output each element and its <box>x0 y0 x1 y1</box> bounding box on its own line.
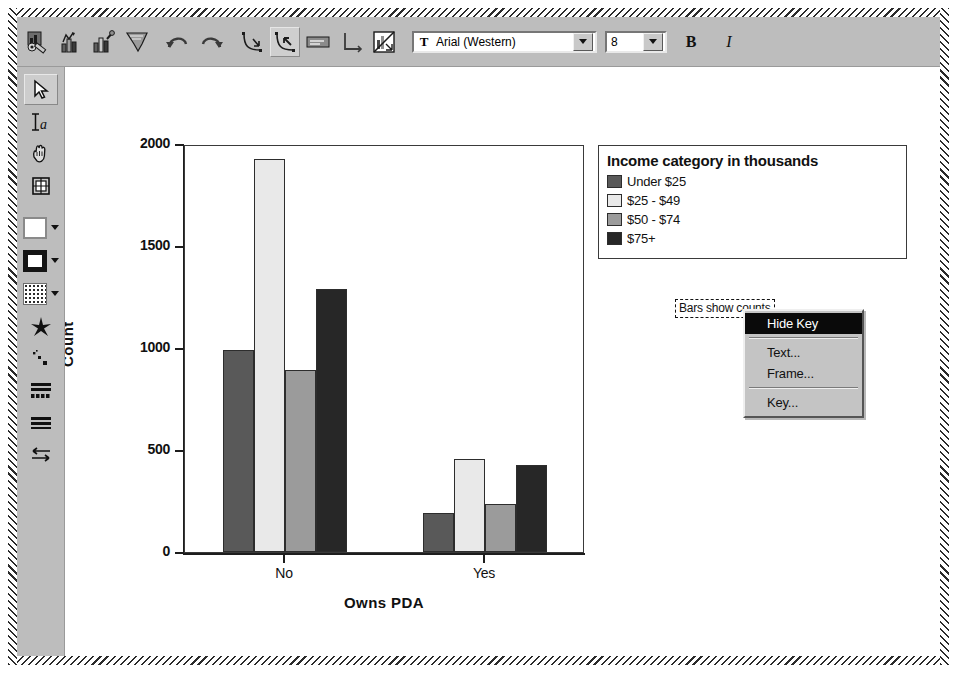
y-axis-tick <box>175 348 184 350</box>
bold-button[interactable]: B <box>677 28 705 56</box>
y-axis-tick-label: 500 <box>95 441 170 457</box>
fill-color-swatch[interactable] <box>23 217 47 239</box>
context-menu[interactable]: Hide KeyText...Frame...Key... <box>743 309 864 418</box>
menu-item[interactable]: Text... <box>745 342 862 363</box>
fill-color-chevron-down-icon[interactable] <box>51 225 59 230</box>
y-axis-title: Count <box>65 321 76 367</box>
bar[interactable] <box>254 159 285 552</box>
chart-editor-window: T Arial (Western) 8 B I a <box>0 0 957 673</box>
bar[interactable] <box>285 370 316 552</box>
legend-label: $75+ <box>627 231 655 246</box>
plot-area[interactable] <box>184 145 584 553</box>
y-axis-tick <box>175 144 184 146</box>
redo-icon[interactable] <box>196 27 226 57</box>
bar-style-tool[interactable] <box>24 375 58 406</box>
border-style-control <box>17 245 65 276</box>
y-axis-tick-labels: 0500100015002000 <box>95 67 170 656</box>
x-axis-line <box>183 553 585 555</box>
svg-text:a: a <box>40 117 47 132</box>
fill-pattern-chevron-down-icon[interactable] <box>51 291 59 296</box>
y-axis-tick-label: 0 <box>95 543 170 559</box>
x-axis-title: Owns PDA <box>184 594 584 611</box>
bar[interactable] <box>316 289 347 552</box>
fill-pattern-swatch[interactable] <box>23 283 47 305</box>
legend-label: $25 - $49 <box>627 193 680 208</box>
legend-swatch <box>607 194 622 207</box>
arrow-style-tool[interactable] <box>24 439 58 470</box>
bars-container <box>185 146 583 552</box>
window-border-right <box>940 8 949 665</box>
bar[interactable] <box>454 459 485 552</box>
x-axis-tick <box>483 554 485 563</box>
top-toolbar: T Arial (Western) 8 B I <box>17 17 940 67</box>
x-axis-tick-label: No <box>244 565 324 581</box>
text-tool[interactable]: a <box>24 106 58 137</box>
font-size-value: 8 <box>607 33 643 51</box>
histogram-icon[interactable] <box>122 27 152 57</box>
bar-chart-icon[interactable] <box>56 27 86 57</box>
legend[interactable]: Income category in thousands Under $25$2… <box>598 145 907 259</box>
chart-transpose-icon[interactable] <box>369 27 399 57</box>
menu-separator <box>749 337 858 339</box>
axis-tool-selected-icon[interactable] <box>270 27 300 57</box>
x-axis-tick <box>283 554 285 563</box>
menu-item[interactable]: Frame... <box>745 363 862 384</box>
legend-label: $50 - $74 <box>627 212 680 227</box>
axis-corner-icon[interactable] <box>336 27 366 57</box>
legend-swatch <box>607 232 622 245</box>
line-style-tool[interactable] <box>24 407 58 438</box>
font-size-chevron-down-icon[interactable] <box>643 33 663 51</box>
legend-item[interactable]: Under $25 <box>607 172 898 191</box>
border-style-swatch[interactable] <box>23 250 47 272</box>
legend-item[interactable]: $50 - $74 <box>607 210 898 229</box>
italic-button[interactable]: I <box>715 28 743 56</box>
y-axis-tick-label: 2000 <box>95 135 170 151</box>
y-axis-tick-label: 1500 <box>95 237 170 253</box>
legend-items: Under $25$25 - $49$50 - $74$75+ <box>607 172 898 248</box>
font-name-combo[interactable]: T Arial (Western) <box>412 31 597 53</box>
font-name-value: Arial (Western) <box>432 33 573 51</box>
bar[interactable] <box>516 465 547 552</box>
menu-item[interactable]: Key... <box>745 392 862 413</box>
axis-tool-icon[interactable] <box>237 27 267 57</box>
bar[interactable] <box>423 513 454 552</box>
bar[interactable] <box>485 504 516 552</box>
bar-chart-edit-icon[interactable] <box>89 27 119 57</box>
chart[interactable]: 0500100015002000 Count NoYes Owns PDA In… <box>65 67 940 656</box>
x-axis-tick-label: Yes <box>444 565 524 581</box>
chart-canvas[interactable]: 0500100015002000 Count NoYes Owns PDA In… <box>65 67 940 656</box>
undo-icon[interactable] <box>163 27 193 57</box>
menu-item[interactable]: Hide Key <box>745 313 862 334</box>
font-type-icon: T <box>416 34 432 50</box>
legend-item[interactable]: $75+ <box>607 229 898 248</box>
menu-separator <box>749 387 858 389</box>
label-icon[interactable] <box>303 27 333 57</box>
legend-title: Income category in thousands <box>607 152 898 169</box>
chart-options-icon[interactable] <box>23 27 53 57</box>
legend-item[interactable]: $25 - $49 <box>607 191 898 210</box>
y-axis-tick-label: 1000 <box>95 339 170 355</box>
marker-style-tool[interactable] <box>24 311 58 342</box>
window-border-left <box>8 8 17 665</box>
window-border-top <box>8 8 949 17</box>
scatter-style-tool[interactable] <box>24 343 58 374</box>
border-style-chevron-down-icon[interactable] <box>51 258 59 263</box>
window-border-bottom <box>8 656 949 665</box>
hand-pan-tool[interactable] <box>24 138 58 169</box>
fill-pattern-control <box>17 278 65 309</box>
font-size-combo[interactable]: 8 <box>605 31 667 53</box>
select-arrow-tool[interactable] <box>24 74 58 105</box>
font-controls: T Arial (Western) 8 B I <box>412 28 743 56</box>
legend-swatch <box>607 213 622 226</box>
y-axis-tick <box>175 246 184 248</box>
left-toolbar: a <box>17 67 65 656</box>
y-axis-tick <box>175 450 184 452</box>
font-name-chevron-down-icon[interactable] <box>573 33 593 51</box>
fill-color-control <box>17 212 65 243</box>
legend-label: Under $25 <box>627 174 686 189</box>
legend-swatch <box>607 175 622 188</box>
bar[interactable] <box>223 350 254 552</box>
grid-tool[interactable] <box>24 170 58 201</box>
